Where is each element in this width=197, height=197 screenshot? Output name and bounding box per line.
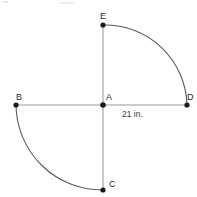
arc-b-to-c (16, 105, 103, 190)
point-e (100, 22, 105, 27)
point-label-a: A (106, 93, 112, 102)
measurement-label-ad: 21 in. (122, 110, 143, 119)
scan-artifact (60, 2, 74, 4)
point-label-e: E (100, 12, 106, 21)
geometry-diagram: E A B D C 21 in. (0, 0, 197, 197)
point-c (100, 187, 105, 192)
point-b (13, 102, 18, 107)
point-label-d: D (187, 93, 194, 102)
point-d (184, 102, 189, 107)
scan-artifact (2, 1, 8, 3)
point-label-c: C (109, 180, 116, 189)
point-label-b: B (16, 93, 22, 102)
geometry-canvas (0, 0, 197, 197)
point-a (100, 102, 106, 108)
arc-e-to-d (103, 25, 187, 105)
